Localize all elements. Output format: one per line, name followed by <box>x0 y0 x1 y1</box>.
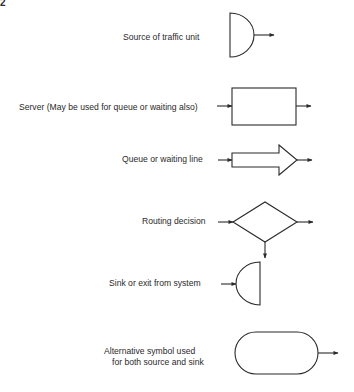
sink-symbol <box>221 262 260 305</box>
server-symbol <box>217 88 311 125</box>
stadium-symbol <box>235 332 338 374</box>
queue-symbol <box>218 145 312 175</box>
routing-symbol <box>218 202 313 258</box>
symbol-diagram <box>0 0 354 392</box>
source-symbol <box>230 13 274 57</box>
